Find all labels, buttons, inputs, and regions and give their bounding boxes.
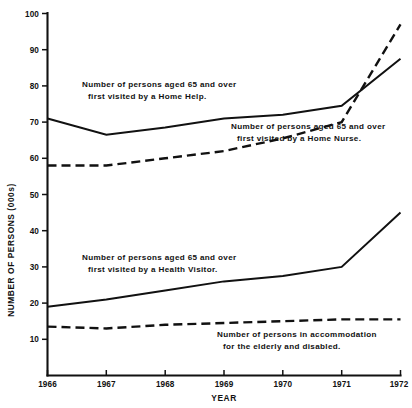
x-axis-tick-labels: 1966 1967 1968 1969 1970 1971 1972 (38, 380, 408, 389)
y-axis-tick-labels: 100 90 80 70 60 50 40 30 20 10 (25, 10, 39, 345)
y-tick-label-70: 70 (30, 118, 40, 127)
y-tick-label-50: 50 (30, 191, 40, 200)
line-chart: 100 90 80 70 60 50 40 30 20 10 1966 1967… (0, 0, 412, 408)
y-tick-label-20: 20 (30, 299, 40, 308)
y-tick-label-30: 30 (30, 263, 40, 272)
x-axis-title: YEAR (211, 393, 236, 403)
chart-container: 100 90 80 70 60 50 40 30 20 10 1966 1967… (0, 0, 412, 408)
x-tick-label-1966: 1966 (38, 380, 57, 389)
annotation-accommodation-line2: for the elderly and disabled. (223, 342, 341, 351)
annotation-health-visitor: Number of persons aged 65 and over first… (82, 253, 237, 274)
annotation-home-help: Number of persons aged 65 and over first… (82, 80, 237, 101)
annotation-accommodation-line1: Number of persons in accommodation (217, 330, 377, 339)
x-tick-label-1967: 1967 (97, 380, 116, 389)
y-tick-label-90: 90 (30, 46, 40, 55)
annotation-home-help-line2: first visited by a Home Help. (88, 92, 207, 101)
annotation-health-visitor-line1: Number of persons aged 65 and over (82, 253, 237, 262)
y-tick-label-40: 40 (30, 227, 40, 236)
annotation-home-help-line1: Number of persons aged 65 and over (82, 80, 237, 89)
x-tick-label-1971: 1971 (332, 380, 351, 389)
x-tick-label-1968: 1968 (156, 380, 175, 389)
y-tick-label-10: 10 (30, 335, 40, 344)
annotation-accommodation: Number of persons in accommodation for t… (217, 330, 377, 351)
y-axis-title: NUMBER OF PERSONS (000s) (6, 183, 16, 317)
x-tick-label-1972: 1972 (390, 380, 409, 389)
annotation-home-nurse: Number of persons aged 65 and over first… (231, 122, 386, 143)
x-tick-label-1969: 1969 (215, 380, 234, 389)
annotation-home-nurse-line1: Number of persons aged 65 and over (231, 122, 386, 131)
series-line-accommodation (48, 319, 401, 328)
annotation-home-nurse-line2: first visited by a Home Nurse. (237, 134, 361, 143)
y-tick-label-60: 60 (30, 154, 40, 163)
y-tick-label-80: 80 (30, 82, 40, 91)
annotation-health-visitor-line2: first visited by a Health Visitor. (88, 265, 218, 274)
x-tick-label-1970: 1970 (273, 380, 292, 389)
y-tick-label-100: 100 (25, 10, 39, 19)
